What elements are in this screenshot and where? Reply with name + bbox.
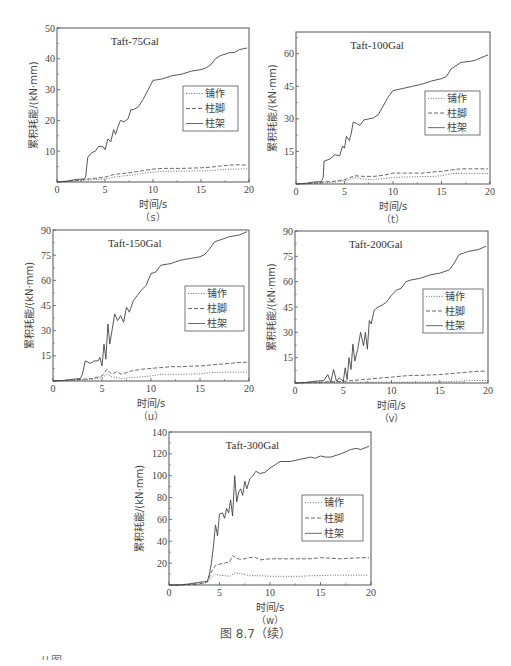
x-tick-label: 0 bbox=[293, 385, 298, 396]
series-line bbox=[296, 169, 488, 184]
y-tick-label: 60 bbox=[157, 514, 167, 525]
legend-label: 柱架 bbox=[205, 117, 225, 129]
legend-label: 柱架 bbox=[445, 319, 465, 331]
chart-s: 051015201020304050Taft-75Gal铺作柱脚柱架时间/s（s… bbox=[27, 23, 254, 224]
y-axis-label: 累积耗能/(kN·mm) bbox=[133, 465, 145, 552]
x-tick-label: 20 bbox=[244, 184, 254, 195]
subfigure-caption: （t） bbox=[381, 214, 405, 225]
y-tick-label: 15 bbox=[41, 350, 51, 361]
x-tick-label: 5 bbox=[100, 383, 105, 394]
x-tick-label: 15 bbox=[435, 385, 445, 396]
y-tick-label: 80 bbox=[157, 492, 167, 503]
x-tick-label: 15 bbox=[437, 186, 447, 197]
y-tick-label: 30 bbox=[284, 113, 294, 124]
legend-label: 柱脚 bbox=[445, 305, 465, 317]
y-tick-label: 30 bbox=[41, 325, 51, 336]
series-line bbox=[57, 165, 247, 182]
series-line bbox=[169, 556, 369, 586]
series-line bbox=[296, 173, 488, 184]
legend-label: 铺作 bbox=[205, 87, 225, 99]
x-tick-label: 10 bbox=[388, 186, 398, 197]
chart-title: Taft-300Gal bbox=[226, 439, 280, 451]
x-tick-label: 15 bbox=[316, 587, 326, 598]
y-axis-label: 累积耗能/(kN·mm) bbox=[266, 64, 278, 151]
chart-title: Taft-75Gal bbox=[111, 35, 159, 47]
x-tick-label: 20 bbox=[366, 587, 376, 598]
x-axis-label: 时间/s bbox=[139, 198, 168, 210]
y-tick-label: 75 bbox=[283, 251, 293, 262]
x-tick-label: 10 bbox=[146, 383, 156, 394]
x-tick-label: 5 bbox=[342, 186, 347, 197]
y-tick-label: 45 bbox=[41, 300, 51, 311]
series-line bbox=[169, 573, 369, 585]
y-axis-label: 累积耗能/(kN·mm) bbox=[27, 61, 39, 148]
chart-title: Taft-200Gal bbox=[349, 238, 403, 250]
x-tick-label: 0 bbox=[167, 587, 172, 598]
legend-label: 柱架 bbox=[324, 527, 344, 539]
y-tick-label: 30 bbox=[45, 84, 55, 95]
y-tick-label: 100 bbox=[152, 470, 167, 481]
y-tick-label: 20 bbox=[157, 558, 167, 569]
legend-label: 柱脚 bbox=[324, 512, 344, 524]
legend-label: 柱架 bbox=[207, 317, 227, 329]
series-line bbox=[53, 362, 247, 381]
y-tick-label: 10 bbox=[45, 146, 55, 157]
chart-w: 0510152020406080100120140Taft-300Gal铺作柱脚… bbox=[133, 427, 376, 627]
x-axis-label: 时间/s bbox=[379, 200, 408, 212]
y-tick-label: 45 bbox=[284, 81, 294, 92]
y-tick-label: 90 bbox=[283, 226, 293, 237]
chart-title: Taft-100Gal bbox=[350, 39, 404, 51]
x-tick-label: 10 bbox=[265, 587, 275, 598]
legend-label: 柱架 bbox=[447, 121, 467, 133]
chart-u: 05101520153045607590Taft-150Gal铺作柱脚柱架时间/… bbox=[23, 225, 254, 423]
x-tick-label: 5 bbox=[103, 184, 108, 195]
x-tick-label: 15 bbox=[195, 383, 205, 394]
y-tick-label: 40 bbox=[45, 53, 55, 64]
y-tick-label: 15 bbox=[283, 352, 293, 363]
legend-label: 柱脚 bbox=[207, 302, 227, 314]
y-tick-label: 90 bbox=[41, 225, 51, 236]
x-tick-label: 10 bbox=[387, 385, 397, 396]
y-tick-label: 40 bbox=[157, 536, 167, 547]
x-tick-label: 5 bbox=[341, 385, 346, 396]
legend-label: 柱脚 bbox=[205, 102, 225, 114]
legend-label: 柱脚 bbox=[447, 107, 467, 119]
chart-v: 05101520153045607590Taft-200Gal铺作柱脚柱架时间/… bbox=[265, 226, 493, 425]
x-tick-label: 5 bbox=[217, 587, 222, 598]
subfigure-caption: （s） bbox=[140, 212, 165, 223]
x-axis-label: 时间/s bbox=[137, 397, 166, 409]
x-tick-label: 20 bbox=[244, 383, 254, 394]
chart-t: 0510152015304560Taft-100Gal铺作柱脚柱架时间/s（t）… bbox=[266, 32, 495, 225]
figure-canvas: 051015201020304050Taft-75Gal铺作柱脚柱架时间/s（s… bbox=[0, 0, 511, 666]
x-tick-label: 20 bbox=[483, 385, 493, 396]
x-axis-label: 时间/s bbox=[256, 601, 285, 613]
y-tick-label: 140 bbox=[152, 427, 167, 438]
figure-caption: 图 8.7（续） bbox=[0, 624, 511, 641]
y-axis-label: 累积耗能/(kN·mm) bbox=[265, 263, 277, 350]
y-tick-label: 120 bbox=[152, 448, 167, 459]
legend-label: 铺作 bbox=[447, 92, 467, 104]
legend-label: 铺作 bbox=[324, 496, 344, 508]
y-tick-label: 50 bbox=[45, 23, 55, 34]
subfigure-caption: （u） bbox=[138, 411, 164, 422]
x-tick-label: 0 bbox=[55, 184, 60, 195]
x-tick-label: 20 bbox=[485, 186, 495, 197]
x-tick-label: 15 bbox=[196, 184, 206, 195]
legend-label: 铺作 bbox=[207, 287, 227, 299]
y-tick-label: 45 bbox=[283, 302, 293, 313]
chart-title: Taft-150Gal bbox=[108, 237, 162, 249]
x-tick-label: 10 bbox=[148, 184, 158, 195]
y-tick-label: 60 bbox=[283, 276, 293, 287]
x-tick-label: 0 bbox=[294, 186, 299, 197]
x-axis-label: 时间/s bbox=[377, 399, 406, 411]
x-tick-label: 0 bbox=[51, 383, 56, 394]
y-tick-label: 30 bbox=[283, 327, 293, 338]
series-line bbox=[53, 372, 247, 381]
subfigure-caption: （v） bbox=[379, 413, 405, 424]
y-axis-label: 累积耗能/(kN·mm) bbox=[23, 262, 35, 349]
y-tick-label: 20 bbox=[45, 115, 55, 126]
y-tick-label: 60 bbox=[284, 48, 294, 59]
y-tick-label: 75 bbox=[41, 250, 51, 261]
legend-label: 铺作 bbox=[445, 290, 465, 302]
y-tick-label: 15 bbox=[284, 146, 294, 157]
